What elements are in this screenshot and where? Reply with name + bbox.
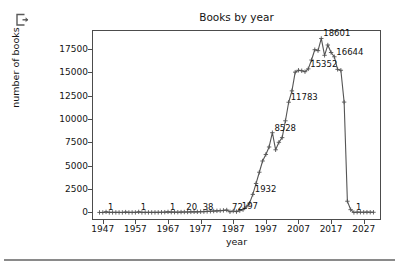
x-tick-mark bbox=[364, 220, 365, 224]
x-tick-label: 1947 bbox=[91, 224, 114, 234]
x-tick-mark bbox=[331, 220, 332, 224]
x-tick-label: 1977 bbox=[189, 224, 212, 234]
y-axis-label: number of books bbox=[10, 5, 21, 131]
data-point-label: 20 bbox=[186, 202, 197, 212]
x-tick-label: 2007 bbox=[287, 224, 310, 234]
x-axis-label: year bbox=[92, 236, 381, 247]
data-point-label: 38 bbox=[203, 202, 214, 212]
x-tick-mark bbox=[103, 220, 104, 224]
y-tick-label: 5000 bbox=[65, 161, 88, 171]
x-tick-mark bbox=[135, 220, 136, 224]
data-point-label: 1 bbox=[108, 202, 113, 212]
y-tick-label: 12500 bbox=[59, 91, 88, 101]
x-tick-mark bbox=[201, 220, 202, 224]
y-tick-label: 17500 bbox=[59, 44, 88, 54]
chart-figure: Books by year number of books year 02500… bbox=[0, 0, 399, 250]
x-tick-label: 1987 bbox=[222, 224, 245, 234]
chart-title: Books by year bbox=[92, 11, 381, 23]
y-tick-label: 10000 bbox=[59, 114, 88, 124]
x-tick-label: 1957 bbox=[124, 224, 147, 234]
x-tick-label: 1997 bbox=[254, 224, 277, 234]
x-tick-label: 2017 bbox=[320, 224, 343, 234]
y-tick-label: 2500 bbox=[65, 184, 88, 194]
x-tick-mark bbox=[168, 220, 169, 224]
bottom-divider bbox=[4, 259, 395, 261]
data-point-label: 1932 bbox=[255, 184, 277, 194]
data-point-label: 1 bbox=[141, 202, 146, 212]
y-tick-label: 7500 bbox=[65, 137, 88, 147]
screenshot-root: Books by year number of books year 02500… bbox=[0, 0, 399, 271]
x-tick-label: 1967 bbox=[157, 224, 180, 234]
x-tick-mark bbox=[233, 220, 234, 224]
y-tick-label: 15000 bbox=[59, 67, 88, 77]
data-point-label: 1 bbox=[170, 202, 175, 212]
data-point-label: 18601 bbox=[323, 28, 350, 38]
data-point-label: 197 bbox=[242, 201, 258, 211]
data-point-label: 16644 bbox=[336, 47, 363, 57]
data-point-label: 8528 bbox=[274, 123, 296, 133]
data-point-label: 15352 bbox=[310, 59, 337, 69]
plot-area bbox=[92, 30, 381, 220]
x-tick-mark bbox=[298, 220, 299, 224]
data-point-label: 11783 bbox=[291, 92, 318, 102]
x-tick-label: 2027 bbox=[352, 224, 375, 234]
data-point-label: 1 bbox=[356, 202, 361, 212]
x-tick-mark bbox=[266, 220, 267, 224]
